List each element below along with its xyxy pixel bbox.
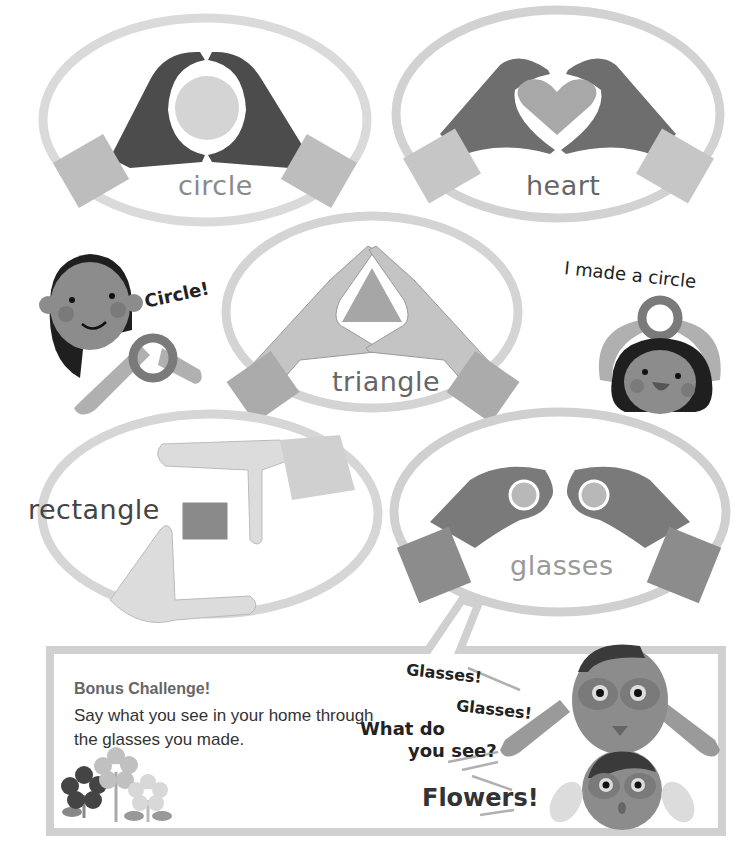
ear bbox=[125, 294, 143, 312]
hands-circle bbox=[642, 300, 678, 336]
mouth bbox=[618, 802, 626, 814]
eye bbox=[634, 689, 642, 697]
left-lens bbox=[510, 481, 538, 509]
eye bbox=[675, 373, 681, 379]
cheek bbox=[58, 306, 74, 322]
cheek bbox=[630, 379, 644, 393]
glasses-panel bbox=[394, 412, 726, 612]
rectangle-shape bbox=[180, 500, 230, 542]
cheek bbox=[681, 383, 695, 397]
arm bbox=[74, 345, 150, 415]
girl-left-character bbox=[39, 254, 202, 415]
bonus-title: Bonus Challenge! bbox=[74, 680, 210, 698]
eye bbox=[596, 689, 604, 697]
right-lens bbox=[580, 481, 608, 509]
eye bbox=[69, 297, 75, 303]
shape-label-rectangle: rectangle bbox=[28, 494, 160, 525]
eye bbox=[109, 293, 115, 299]
shape-label-heart: heart bbox=[526, 170, 600, 201]
girl-right-character bbox=[599, 300, 721, 414]
top-sleeve bbox=[280, 435, 355, 500]
eye bbox=[603, 782, 610, 789]
eye bbox=[635, 782, 642, 789]
shape-label-circle: circle bbox=[178, 170, 253, 201]
cheek bbox=[110, 302, 126, 318]
ear bbox=[39, 296, 57, 314]
circle-shape bbox=[175, 76, 239, 140]
speech-flowers: Flowers! bbox=[422, 784, 539, 812]
bonus-text: Say what you see in your home through th… bbox=[74, 704, 374, 752]
shape-label-triangle: triangle bbox=[332, 366, 440, 397]
eye bbox=[642, 369, 648, 375]
speech-you-see: you see? bbox=[408, 740, 497, 761]
shape-label-glasses: glasses bbox=[510, 550, 614, 581]
